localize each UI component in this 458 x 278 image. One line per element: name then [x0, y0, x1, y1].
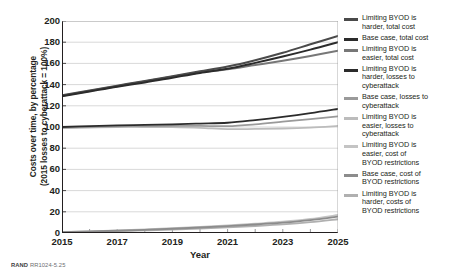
- legend-item-label: Limiting BYOD isharder, total cost: [362, 14, 458, 31]
- y-tick-label: 80: [34, 143, 60, 153]
- y-tick-label: 100: [34, 122, 60, 132]
- legend-color-swatch-icon: [344, 49, 358, 52]
- legend-item-label: Limiting BYOD iseasier, total cost: [362, 45, 458, 62]
- y-tick-label: 140: [34, 80, 60, 90]
- legend-item-label: Limiting BYOD iseasier, losses tocyberat…: [362, 113, 458, 139]
- y-tick-label: 180: [34, 37, 60, 47]
- x-tick-label: 2023: [263, 236, 303, 247]
- x-tick-label: 2021: [208, 236, 248, 247]
- x-tick-label: 2017: [97, 236, 137, 247]
- credit-figure-id: RR1024-5.25: [30, 262, 66, 268]
- legend-item[interactable]: Limiting BYOD isharder, total cost: [344, 14, 458, 31]
- y-tick-label: 160: [34, 58, 60, 68]
- legend-item-label: Base case, total cost: [362, 34, 458, 43]
- legend-color-swatch-icon: [344, 18, 358, 21]
- y-tick-label: 40: [34, 186, 60, 196]
- legend-color-swatch-icon: [344, 117, 358, 120]
- y-tick-label: 60: [34, 164, 60, 174]
- legend-item[interactable]: Limiting BYOD iseasier, losses tocyberat…: [344, 113, 458, 139]
- legend-item-label: Base case, cost ofBYOD restrictions: [362, 170, 458, 187]
- legend-color-swatch-icon: [344, 97, 358, 100]
- legend-item[interactable]: Base case, cost ofBYOD restrictions: [344, 170, 458, 187]
- legend-item[interactable]: Limiting BYOD iseasier, cost ofBYOD rest…: [344, 141, 458, 167]
- y-tick-label: 120: [34, 101, 60, 111]
- legend-color-swatch-icon: [344, 69, 358, 72]
- legend-item-label: Limiting BYOD isharder, costs ofBYOD res…: [362, 190, 458, 216]
- x-tick-label: 2015: [42, 236, 82, 247]
- line-chart-svg: [62, 21, 338, 233]
- legend-color-swatch-icon: [344, 38, 358, 41]
- legend-item[interactable]: Base case, losses tocyberattack: [344, 93, 458, 110]
- legend-item[interactable]: Base case, total cost: [344, 34, 458, 43]
- y-tick-label: 200: [34, 16, 60, 26]
- legend-item-label: Limiting BYOD iseasier, cost ofBYOD rest…: [362, 141, 458, 167]
- credit-org: RAND: [11, 262, 28, 268]
- figure-credit: RAND RR1024-5.25: [11, 262, 65, 268]
- legend-item-label: Limiting BYOD isharder, losses tocyberat…: [362, 65, 458, 91]
- x-axis-title: Year: [62, 249, 338, 260]
- y-tick-label: 20: [34, 207, 60, 217]
- legend-item[interactable]: Limiting BYOD isharder, costs ofBYOD res…: [344, 190, 458, 216]
- chart-legend: Limiting BYOD isharder, total costBase c…: [344, 14, 458, 246]
- legend-item[interactable]: Limiting BYOD isharder, losses tocyberat…: [344, 65, 458, 91]
- plot-area: [62, 21, 338, 233]
- legend-color-swatch-icon: [344, 145, 358, 148]
- legend-item-label: Base case, losses tocyberattack: [362, 93, 458, 110]
- legend-color-swatch-icon: [344, 174, 358, 177]
- figure-chart-byod-costs: Costs over time, by percentage (2015 los…: [0, 0, 458, 278]
- legend-item[interactable]: Limiting BYOD iseasier, total cost: [344, 45, 458, 62]
- legend-color-swatch-icon: [344, 194, 358, 197]
- x-tick-label: 2019: [152, 236, 192, 247]
